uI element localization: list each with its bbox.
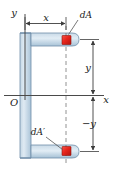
x-axis-label: x	[103, 94, 109, 105]
area-element-upper-label: dA	[80, 10, 93, 20]
negative-y-dimension-label: −y	[82, 118, 96, 129]
x-dimension-label: x	[43, 12, 49, 23]
leader-line-upper-element	[69, 20, 79, 35]
origin-label: O	[10, 97, 18, 108]
figure-container: y x O x y −y dA dA′	[0, 0, 115, 171]
area-element-upper-square	[62, 36, 71, 45]
area-element-lower-square	[62, 147, 71, 156]
area-element-lower-label: dA′	[31, 127, 45, 137]
y-dimension-label: y	[84, 62, 91, 73]
y-axis-label: y	[10, 7, 17, 18]
cross-section-figure: y x O x y −y dA dA′	[0, 0, 115, 171]
coordinate-axes	[4, 14, 104, 100]
